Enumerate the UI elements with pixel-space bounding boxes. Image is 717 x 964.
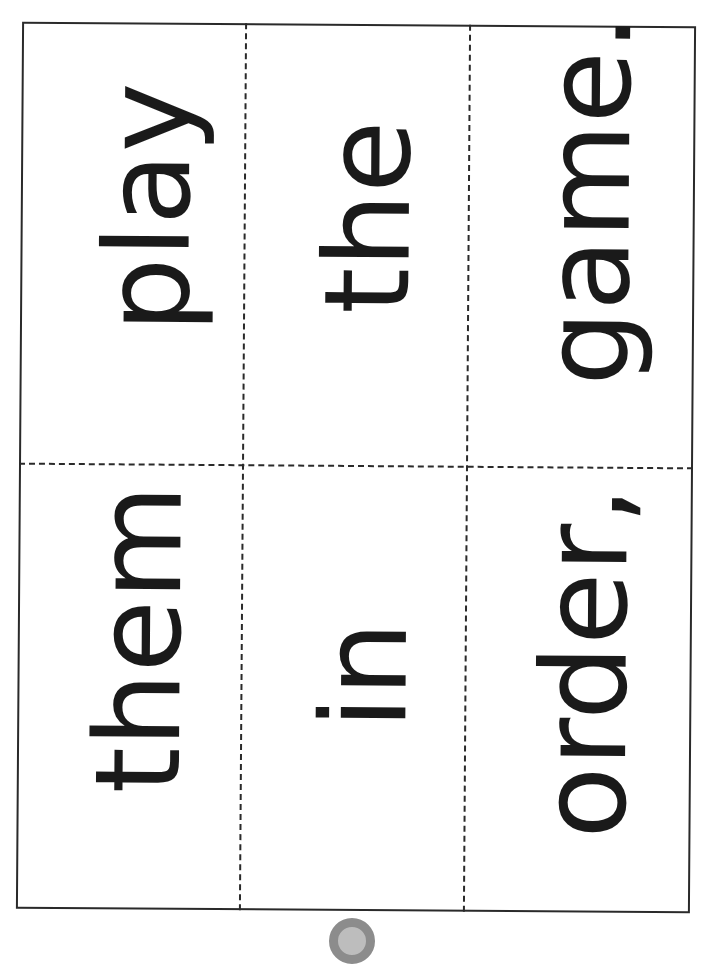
word-card-bottom-right[interactable]: order,: [464, 466, 693, 914]
word-card-top-middle[interactable]: the: [243, 23, 470, 466]
card-word: the: [308, 120, 427, 314]
card-word: game.: [528, 13, 649, 386]
binder-hole-icon: [329, 918, 375, 964]
word-card-sheet: play the game. them in order,: [16, 22, 696, 914]
word-card-bottom-middle[interactable]: in: [240, 464, 467, 912]
word-card-top-left[interactable]: play: [19, 22, 246, 465]
word-card-top-right[interactable]: game.: [467, 25, 696, 468]
card-word: them: [79, 484, 199, 793]
card-word: order,: [524, 486, 644, 839]
card-word: play: [88, 82, 208, 333]
card-word: in: [305, 621, 424, 729]
word-card-bottom-left[interactable]: them: [16, 463, 243, 911]
